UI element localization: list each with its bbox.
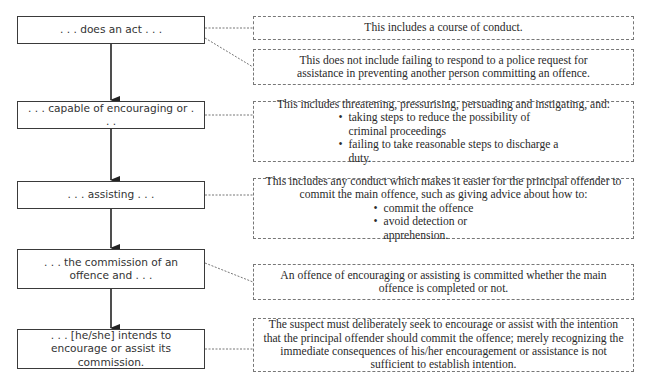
note-course-of-conduct: This includes a course of conduct. xyxy=(253,16,634,40)
note-text: The suspect must deliberately seek to en… xyxy=(260,318,627,372)
stage-label: . . . [he/she] intends to encourage or a… xyxy=(28,329,194,370)
stage-label: . . . does an act . . . xyxy=(60,23,162,37)
stage-label: . . . assisting . . . xyxy=(68,188,155,202)
stage-box-commission: . . . the commission of an offence and .… xyxy=(17,249,205,289)
bullet-item: taking steps to reduce the possibility o… xyxy=(339,111,569,138)
note-text: This includes a course of conduct. xyxy=(364,21,522,34)
note-encouraging-includes: This includes threatening, pressurising,… xyxy=(253,101,634,162)
note-text: This does not include failing to respond… xyxy=(284,54,603,81)
flowchart-diagram: . . . does an act . . . . . . capable of… xyxy=(0,0,654,391)
note-text: An offence of encouraging or assisting i… xyxy=(264,269,623,296)
stage-box-encouraging: . . . capable of encouraging or . . . xyxy=(17,101,205,129)
stage-box-assisting: . . . assisting . . . xyxy=(17,181,205,209)
bullet-item: avoid detection or apprehension. xyxy=(374,215,534,242)
note-text: This includes threatening, pressurising,… xyxy=(277,98,610,111)
stage-box-act: . . . does an act . . . xyxy=(17,16,205,44)
note-main-offence: An offence of encouraging or assisting i… xyxy=(253,264,634,300)
stage-box-intention: . . . [he/she] intends to encourage or a… xyxy=(17,329,205,369)
stage-label: . . . the commission of an offence and .… xyxy=(28,256,194,283)
bullet-list: commit the offence avoid detection or ap… xyxy=(374,202,534,242)
note-assisting-includes: This includes any conduct which makes it… xyxy=(253,178,634,239)
note-intention: The suspect must deliberately seek to en… xyxy=(253,318,634,372)
bullet-list: taking steps to reduce the possibility o… xyxy=(339,111,569,165)
note-police-request: This does not include failing to respond… xyxy=(253,49,634,85)
bullet-item: failing to take reasonable steps to disc… xyxy=(339,138,569,165)
note-text: This includes any conduct which makes it… xyxy=(256,175,631,202)
stage-label: . . . capable of encouraging or . . . xyxy=(28,102,194,129)
bullet-item: commit the offence xyxy=(374,202,534,215)
